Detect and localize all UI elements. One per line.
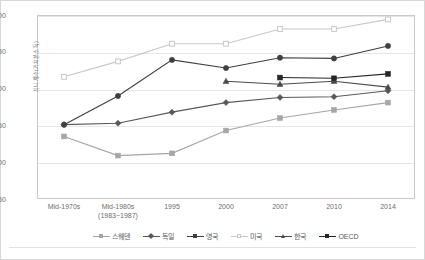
legend-divider bbox=[9, 247, 416, 248]
x-axis-tick-label: 2014 bbox=[353, 203, 423, 212]
chart-legend: 스웨덴독일영국미국한국OECD bbox=[37, 229, 415, 243]
legend-label: 독일 bbox=[162, 231, 174, 241]
legend-label: 한국 bbox=[294, 231, 306, 241]
y-axis-tick-label: 0.200 bbox=[0, 159, 6, 166]
legend-item-0[interactable]: 스웨덴 bbox=[93, 231, 130, 241]
y-axis-tick-label: 0.350 bbox=[0, 48, 6, 55]
gini-coefficient-line-chart: 0.1500.2000.2500.3000.3500.400 지니계수(가처분소… bbox=[0, 0, 425, 260]
legend-swatch-icon bbox=[143, 233, 160, 240]
legend-swatch-icon bbox=[231, 233, 248, 240]
y-axis-tick-label: 0.150 bbox=[0, 196, 6, 203]
legend-swatch-icon bbox=[319, 233, 336, 240]
legend-swatch-icon bbox=[93, 233, 110, 240]
legend-label: OECD bbox=[338, 233, 358, 240]
gridline bbox=[38, 126, 414, 127]
y-axis-title: 지니계수(가처분소득) bbox=[32, 22, 39, 112]
gridline bbox=[38, 90, 414, 91]
legend-swatch-icon bbox=[187, 233, 204, 240]
plot-area bbox=[37, 15, 415, 199]
gridline bbox=[38, 53, 414, 54]
y-axis-tick-label: 0.300 bbox=[0, 85, 6, 92]
gridline bbox=[38, 163, 414, 164]
legend-item-5[interactable]: OECD bbox=[319, 233, 358, 240]
y-axis-tick-label: 0.250 bbox=[0, 122, 6, 129]
legend-swatch-icon bbox=[275, 233, 292, 240]
legend-label: 미국 bbox=[250, 231, 262, 241]
legend-item-3[interactable]: 미국 bbox=[231, 231, 262, 241]
y-axis-tick-label: 0.400 bbox=[0, 12, 6, 19]
legend-label: 영국 bbox=[206, 231, 218, 241]
legend-item-2[interactable]: 영국 bbox=[187, 231, 218, 241]
gridline bbox=[38, 16, 414, 17]
legend-label: 스웨덴 bbox=[112, 231, 130, 241]
legend-item-1[interactable]: 독일 bbox=[143, 231, 174, 241]
legend-item-4[interactable]: 한국 bbox=[275, 231, 306, 241]
